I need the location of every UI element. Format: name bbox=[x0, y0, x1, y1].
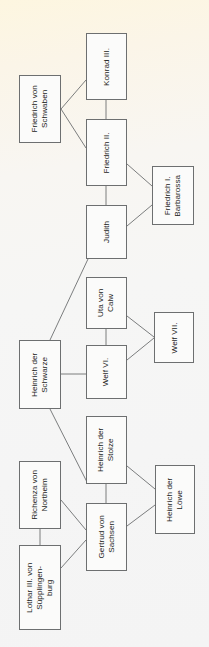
node-label: Konrad III. bbox=[102, 48, 112, 86]
node-label: Heinrich der Löwe bbox=[165, 477, 185, 521]
node-judith[interactable]: Judith bbox=[86, 205, 127, 259]
node-richenza-von-northeim[interactable]: Richenza von Northeim bbox=[19, 461, 61, 529]
node-label: Welf VI. bbox=[102, 358, 112, 387]
node-label: Heinrich der Schwarze bbox=[30, 352, 50, 396]
node-label: Richenza von Northeim bbox=[30, 470, 50, 520]
connector-line bbox=[127, 505, 155, 526]
node-label: Friedrich von Schwaben bbox=[30, 85, 50, 132]
connector-line bbox=[127, 338, 154, 360]
node-friedrich-i-barbarossa[interactable]: Friedrich I. Barbarossa bbox=[152, 166, 194, 225]
node-label: Welf VII. bbox=[169, 322, 179, 353]
node-lothar-iii-suepplingenburg[interactable]: Lothar III. von Süpplingen- burg bbox=[19, 545, 61, 630]
node-label: Friedrich I. Barbarossa bbox=[163, 175, 183, 217]
node-heinrich-der-stolze[interactable]: Heinrich der Stolze bbox=[86, 416, 127, 484]
connector-line bbox=[50, 259, 88, 340]
connector-line bbox=[61, 109, 86, 148]
node-friedrich-von-schwaben[interactable]: Friedrich von Schwaben bbox=[19, 75, 61, 143]
connector-line bbox=[127, 205, 152, 226]
node-label: Uta von Calw bbox=[97, 289, 117, 317]
node-label: Lothar III. von Süpplingen- burg bbox=[25, 562, 55, 612]
node-friedrich-ii[interactable]: Friedrich II. bbox=[86, 119, 127, 186]
node-uta-von-calw[interactable]: Uta von Calw bbox=[86, 277, 127, 329]
connector-line bbox=[61, 540, 86, 568]
node-gertrud-von-sachsen[interactable]: Gertrud von Sachsen bbox=[86, 503, 127, 571]
connector-line bbox=[61, 80, 86, 109]
node-label: Gertrud von Sachsen bbox=[97, 515, 117, 558]
genealogy-diagram: Friedrich von SchwabenKonrad III.Friedri… bbox=[0, 0, 209, 647]
node-heinrich-der-loewe[interactable]: Heinrich der Löwe bbox=[155, 465, 195, 534]
node-label: Judith bbox=[102, 221, 112, 243]
node-heinrich-der-schwarze[interactable]: Heinrich der Schwarze bbox=[19, 340, 61, 409]
node-label: Friedrich II. bbox=[102, 132, 112, 173]
connector-line bbox=[61, 500, 86, 530]
node-welf-vi[interactable]: Welf VI. bbox=[86, 345, 127, 399]
node-welf-vii[interactable]: Welf VII. bbox=[154, 312, 194, 363]
connector-line bbox=[127, 316, 154, 337]
connector-line bbox=[127, 164, 152, 186]
node-konrad-iii[interactable]: Konrad III. bbox=[86, 33, 127, 100]
node-label: Heinrich der Stolze bbox=[97, 428, 117, 472]
connector-line bbox=[127, 466, 155, 489]
